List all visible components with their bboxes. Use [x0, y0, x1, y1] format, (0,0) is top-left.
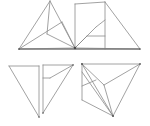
- segment-hub-to-rightlow: [75, 36, 87, 48]
- segment-midleft-to-hub: [47, 34, 75, 48]
- segment-left-apex-to-midleft: [47, 1, 50, 34]
- segment-innerB-to-leftlow: [82, 80, 96, 86]
- figure-canvas: [0, 0, 150, 126]
- vertex-bottom-left-bottom-marker: [38, 116, 39, 117]
- vertex-left-base-marker: [18, 48, 19, 49]
- segment-right-apex-to-rightbase: [105, 2, 140, 49]
- figure-bottom-middle: [43, 65, 73, 113]
- vertex-marker-group: [18, 47, 140, 118]
- segment-hypotenuse: [9, 66, 39, 117]
- segment-innerA-to-apex: [104, 85, 113, 116]
- segment-topright-to-inner: [50, 65, 73, 78]
- vertex-right-base-marker: [139, 48, 140, 49]
- triangle-dissection-drawing: [0, 0, 150, 126]
- figure-bottom-right: [82, 64, 140, 116]
- segment-leftbase-to-uppermid: [19, 22, 62, 49]
- segment-right-outer-left: [75, 2, 105, 4]
- segment-hypotenuse: [43, 65, 73, 113]
- vertex-bottom-middle-bottom-marker: [42, 112, 43, 113]
- figure-top-composite: [19, 1, 140, 49]
- segment-rightinner-to-apexline: [96, 20, 105, 27]
- segment-left-outer-left: [19, 1, 50, 49]
- figure-group: [9, 1, 140, 117]
- vertex-bottom-right-apex-marker: [112, 115, 114, 117]
- vertex-bottom-middle-topright-marker: [72, 64, 73, 65]
- vertex-bottom-right-topleft-marker: [81, 63, 83, 65]
- figure-bottom-left: [9, 66, 39, 117]
- vertex-bottom-right-topright-marker: [139, 63, 140, 64]
- vertex-hub-marker: [74, 47, 76, 49]
- segment-uppermid-to-hub: [62, 22, 75, 48]
